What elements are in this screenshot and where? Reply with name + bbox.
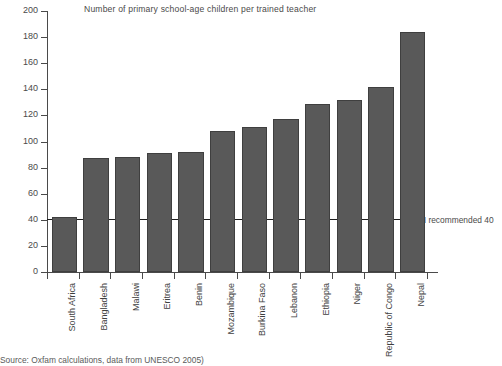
x-axis-line — [47, 272, 438, 273]
y-axis-tick-label: 140 — [4, 84, 38, 93]
x-axis-category-label: Ethiopia — [322, 283, 331, 316]
x-axis-category-label: Eritrea — [163, 283, 172, 310]
x-axis-tick — [364, 273, 365, 279]
bar-chart: Number of primary school-age children pe… — [0, 0, 502, 366]
x-axis-category-label: Lebanon — [290, 283, 299, 318]
y-axis-tick — [41, 220, 47, 221]
x-axis-tick — [427, 273, 428, 279]
x-axis-category-label: South Africa — [68, 283, 77, 332]
x-axis-category-label: Bangladesh — [100, 283, 109, 331]
bar — [400, 32, 425, 272]
bar — [210, 131, 235, 272]
y-axis-tick — [41, 115, 47, 116]
y-axis-tick-labels: 020406080100120140160180200 — [0, 0, 38, 366]
bar — [83, 158, 108, 272]
y-axis-tick — [41, 168, 47, 169]
y-axis-tick-label: 200 — [4, 6, 38, 15]
y-axis-tick — [41, 194, 47, 195]
x-axis-tick — [110, 273, 111, 279]
x-axis-tick — [79, 273, 80, 279]
y-axis-tick — [41, 11, 47, 12]
y-axis-tick — [41, 142, 47, 143]
y-axis-tick — [41, 63, 47, 64]
y-axis-tick-label: 0 — [4, 267, 38, 276]
y-axis-tick-label: 160 — [4, 58, 38, 67]
x-axis-category-label: Benin — [195, 283, 204, 306]
x-axis-tick — [47, 273, 48, 279]
y-axis-tick-label: 20 — [4, 241, 38, 250]
x-axis-tick — [269, 273, 270, 279]
y-axis-tick-label: 120 — [4, 110, 38, 119]
bar — [115, 157, 140, 272]
bar — [368, 87, 393, 272]
source-note: Source: Oxfam calculations, data from UN… — [0, 355, 204, 365]
y-axis-tick — [41, 89, 47, 90]
x-axis-category-label: Burkina Faso — [258, 283, 267, 336]
bar — [52, 217, 77, 272]
x-axis-tick — [237, 273, 238, 279]
bar — [147, 153, 172, 272]
x-axis-category-label: Republic of Congo — [385, 283, 394, 357]
x-axis-tick — [174, 273, 175, 279]
bar — [305, 104, 330, 272]
x-axis-tick — [395, 273, 396, 279]
x-axis-category-label: Malawi — [132, 283, 141, 311]
bar — [337, 100, 362, 272]
x-axis-category-label: Nepal — [417, 283, 426, 307]
x-axis-category-label: Niger — [353, 283, 362, 305]
bar — [242, 127, 267, 272]
x-axis-tick — [142, 273, 143, 279]
bar — [273, 119, 298, 272]
y-axis-tick — [41, 246, 47, 247]
y-axis-tick-label: 40 — [4, 215, 38, 224]
y-axis-tick-label: 80 — [4, 163, 38, 172]
y-axis-tick-label: 100 — [4, 137, 38, 146]
x-axis-tick — [332, 273, 333, 279]
un-recommended-label: UN recommended 40 — [414, 215, 494, 225]
bar — [178, 152, 203, 272]
y-axis-tick — [41, 37, 47, 38]
y-axis-tick-label: 180 — [4, 32, 38, 41]
x-axis-category-label: Mozambique — [227, 283, 236, 335]
x-axis-tick — [300, 273, 301, 279]
y-axis-tick-label: 60 — [4, 189, 38, 198]
x-axis-tick — [205, 273, 206, 279]
